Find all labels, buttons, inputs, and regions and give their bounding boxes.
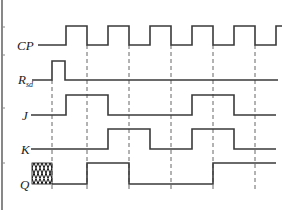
wave-rsd [32,61,278,80]
label-rsd: R [17,72,26,87]
label-rsd-subscript: sd [26,80,34,89]
label-q: Q [20,177,30,192]
label-k: K [20,142,31,157]
label-j: J [22,108,29,123]
q-undefined-region [32,163,52,184]
label-cp: CP [17,38,34,53]
wave-q [52,163,276,184]
wave-j [31,95,276,115]
wave-k [31,129,276,149]
wave-cp [38,26,282,45]
left-border [2,0,5,210]
waveforms [31,26,282,184]
guide-lines [52,45,255,192]
timing-diagram: CP R sd J K Q [0,0,293,210]
